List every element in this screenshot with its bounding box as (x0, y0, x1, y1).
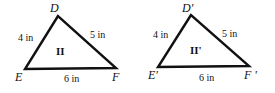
vertex-f-label: F (112, 71, 119, 83)
side-de-length: 4 in (18, 33, 33, 43)
side-df-length: 5 in (90, 30, 105, 40)
side-de-prime-length: 4 in (153, 30, 168, 40)
side-ef-length: 6 in (64, 74, 79, 84)
triangle-ii (25, 16, 116, 69)
vertex-f-prime-label: F ' (244, 69, 257, 81)
triangle-ii-prime-label: II' (190, 45, 202, 56)
vertex-e-label: E (15, 71, 22, 83)
vertex-d-prime-label: D' (182, 2, 193, 14)
vertex-d-label: D (50, 2, 59, 14)
vertex-e-prime-label: E' (148, 69, 158, 81)
side-ef-prime-length: 6 in (199, 73, 214, 83)
side-df-prime-length: 5 in (222, 29, 237, 39)
triangle-ii-label: II (56, 46, 65, 57)
triangles-figure (0, 0, 275, 93)
triangle-ii-prime (158, 15, 249, 67)
